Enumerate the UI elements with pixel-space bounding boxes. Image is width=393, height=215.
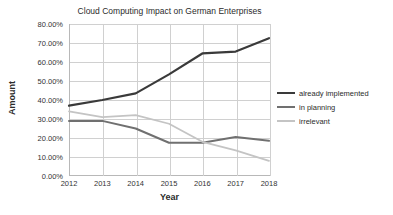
line-chart: Cloud Computing Impact on German Enterpr…	[0, 0, 393, 215]
y-axis-title: Amount	[7, 58, 17, 138]
chart-title: Cloud Computing Impact on German Enterpr…	[69, 6, 270, 17]
series-lines	[69, 24, 270, 176]
x-axis-tick-label: 2017	[221, 179, 251, 188]
x-axis-tick-label: 2012	[54, 179, 84, 188]
x-axis-tick-label: 2018	[254, 179, 284, 188]
legend-swatch-irrelevant	[277, 120, 295, 122]
legend-swatch-in-planning	[277, 106, 295, 108]
x-axis-tick-label: 2014	[121, 179, 151, 188]
chart-legend: already implementedin planningirrelevant	[277, 88, 389, 130]
legend-item[interactable]: irrelevant	[277, 116, 389, 127]
legend-label: already implemented	[299, 89, 369, 98]
y-axis-tick-label: 70.00%	[0, 39, 63, 48]
gridline-vertical	[270, 24, 271, 176]
series-line-already-implemented	[69, 38, 269, 105]
y-axis-tick-label: 10.00%	[0, 153, 63, 162]
x-axis-tick-label: 2015	[154, 179, 184, 188]
legend-label: in planning	[299, 103, 335, 112]
x-axis-tick-label: 2016	[187, 179, 217, 188]
legend-item[interactable]: in planning	[277, 102, 389, 113]
legend-label: irrelevant	[299, 117, 330, 126]
x-axis-title: Year	[69, 192, 270, 202]
series-line-irrelevant	[69, 111, 269, 160]
legend-swatch-already-implemented	[277, 92, 295, 94]
y-axis-tick-label: 80.00%	[0, 20, 63, 29]
x-axis-tick-label: 2013	[87, 179, 117, 188]
legend-item[interactable]: already implemented	[277, 88, 389, 99]
